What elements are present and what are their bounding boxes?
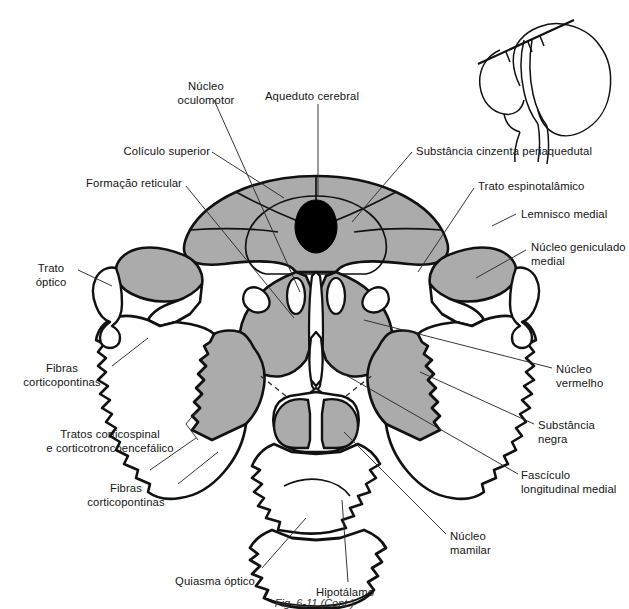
label-formacao-reticular: Formação reticular — [57, 177, 182, 191]
brain-orientation-inset — [478, 20, 611, 164]
label-trato-espinotalamico: Trato espinotalâmico — [478, 180, 618, 194]
label-lemnisco-medial: Lemnisco medial — [521, 208, 629, 222]
label-colico-superior: Colículo superior — [100, 145, 210, 159]
anatomy-figure: .gry{fill:#ababab;stroke:#111;stroke-wid… — [0, 0, 629, 609]
label-nucleo-mamilar: Núcleo mamilar — [450, 530, 522, 557]
label-aqueduto-cerebral: Aqueduto cerebral — [252, 90, 372, 104]
hypothalamus — [252, 444, 380, 534]
label-fasciculo-longitudinal-medial: Fascículo longitudinal medial — [521, 469, 629, 496]
label-quiasma-optico: Quiasma óptico — [162, 575, 268, 589]
figure-caption: Fig. 6-11 (Cont.) — [0, 597, 629, 609]
label-nucleo-vermelho: Núcleo vermelho — [556, 363, 628, 390]
label-substancia-negra: Substância negra — [538, 419, 624, 446]
oculomotor-nucleus-right — [327, 278, 345, 314]
label-trato-optico: Trato óptico — [25, 262, 77, 289]
cerebral-aqueduct — [295, 200, 337, 253]
label-substancia-cinzenta-periaquedutal: Substância cinzenta periaquedutal — [416, 145, 621, 159]
label-fibras-corticopontinas-inf: Fibras corticopontinas — [74, 482, 178, 509]
label-nucleo-geniculado-medial: Núcleo geniculado medial — [531, 241, 629, 268]
label-nucleo-oculomotor: Núcleo oculomotor — [161, 80, 251, 107]
label-tratos-corticospinal: Tratos corticospinal e corticotroncoence… — [22, 428, 198, 455]
label-fibras-corticopontinas-sup: Fibras corticopontinas — [10, 362, 114, 389]
medial-longitudinal-fasciculus — [310, 332, 323, 386]
